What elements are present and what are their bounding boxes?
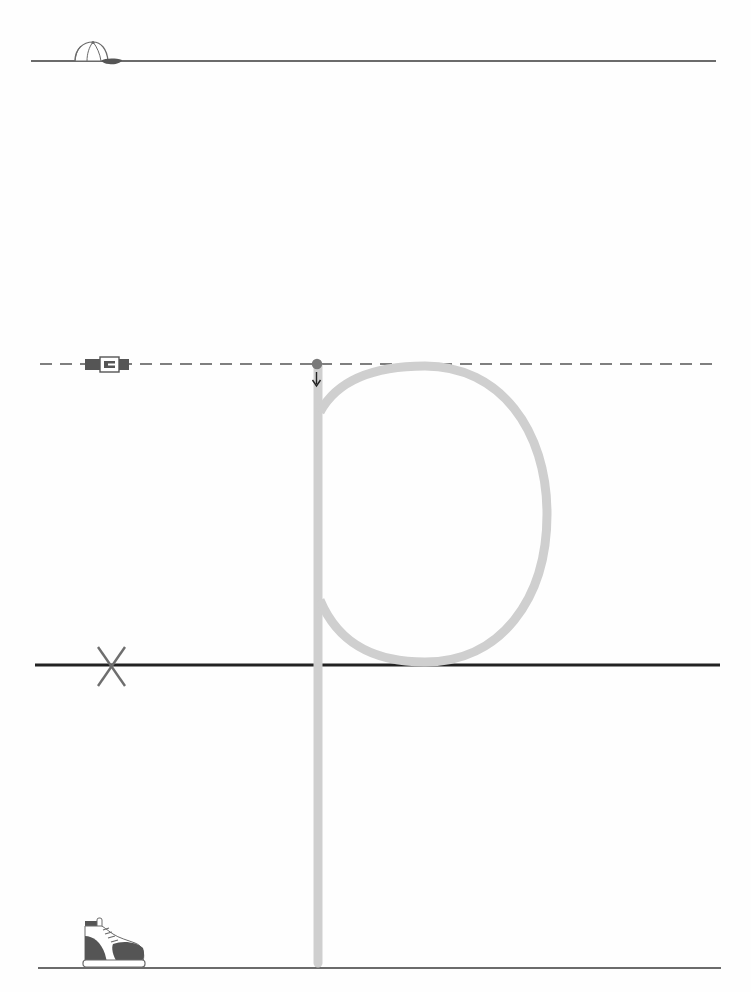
belt-icon xyxy=(85,357,129,372)
worksheet-canvas xyxy=(0,0,751,992)
cap-icon xyxy=(75,41,122,64)
worksheet-page: Letter p handwriting practice p xyxy=(0,0,751,992)
start-dot xyxy=(312,359,322,369)
shoe-icon xyxy=(83,918,145,967)
